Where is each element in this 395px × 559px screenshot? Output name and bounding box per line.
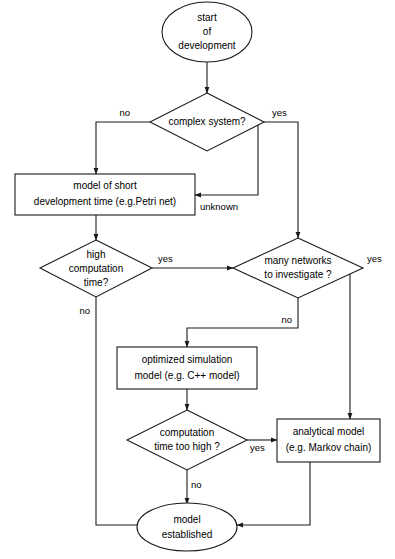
flowchart-canvas: start of development complex system? mod…	[0, 0, 395, 559]
high-computation-line1: high	[87, 249, 106, 260]
edge-label-too-high-yes: yes	[250, 442, 265, 453]
connector-complex-no-to-petri-model	[96, 122, 150, 174]
node-petri-model[interactable]: model of short development time (e.g.Pet…	[15, 174, 195, 215]
complex-system-label: complex system?	[168, 116, 246, 127]
petri-model-line1: model of short	[73, 180, 137, 191]
high-computation-line2: computation	[69, 263, 123, 274]
connector-analytical-model-to-model-established	[237, 462, 310, 525]
edge-label-too-high-no: no	[191, 479, 202, 490]
optimized-simulation-line1: optimized simulation	[142, 354, 233, 365]
high-computation-line3: time?	[84, 277, 109, 288]
edge-label-high-computation-no: no	[79, 305, 90, 316]
many-networks-line1: many networks	[264, 255, 331, 266]
edge-label-many-networks-yes: yes	[367, 253, 382, 264]
model-established-ellipse	[137, 503, 237, 551]
start-development-line2: of	[203, 26, 212, 37]
edge-label-high-computation-yes: yes	[158, 253, 173, 264]
edge-label-complex-yes: yes	[272, 107, 287, 118]
edge-label-complex-no: no	[119, 107, 130, 118]
model-established-line1: model	[173, 514, 200, 525]
analytical-model-line1: analytical model	[293, 426, 365, 437]
model-established-line2: established	[162, 529, 213, 540]
node-computation-too-high[interactable]: computation time too high ?	[127, 410, 247, 470]
edge-label-many-networks-no: no	[281, 314, 292, 325]
computation-too-high-line1: computation	[160, 427, 214, 438]
start-development-line1: start	[197, 12, 217, 23]
optimized-simulation-line2: model (e.g. C++ model)	[134, 370, 239, 381]
many-networks-line2: to investigate ?	[264, 269, 332, 280]
computation-too-high-line2: time too high ?	[154, 441, 220, 452]
connector-complex-yes-to-many-networks	[264, 122, 298, 238]
node-optimized-simulation[interactable]: optimized simulation model (e.g. C++ mod…	[117, 347, 257, 389]
node-many-networks[interactable]: many networks to investigate ?	[233, 238, 363, 298]
node-complex-system[interactable]: complex system?	[150, 93, 264, 151]
node-high-computation-time[interactable]: high computation time?	[40, 240, 152, 297]
node-start-development[interactable]: start of development	[162, 2, 252, 62]
analytical-model-line2: (e.g. Markov chain)	[286, 442, 372, 453]
connector-many-networks-yes-to-analytical-model	[350, 268, 363, 419]
petri-model-line2: development time (e.g.Petri net)	[34, 196, 176, 207]
edge-label-unknown: unknown	[200, 201, 238, 212]
flowchart-svg: start of development complex system? mod…	[0, 0, 395, 559]
node-model-established[interactable]: model established	[137, 503, 237, 551]
start-development-line3: development	[178, 40, 235, 51]
connector-high-computation-no-to-model-established	[96, 297, 178, 525]
node-analytical-model[interactable]: analytical model (e.g. Markov chain)	[277, 419, 380, 462]
